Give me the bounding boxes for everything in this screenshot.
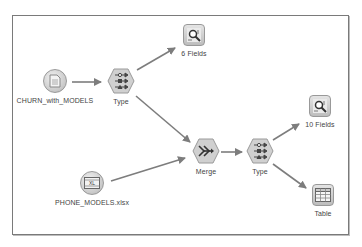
node-label: Type (113, 98, 129, 105)
node-phone-excel-source[interactable]: XL PHONE_MODELS.xlsx (54, 171, 130, 206)
document-icon (43, 69, 67, 93)
type-icon (107, 68, 135, 94)
node-label: Table (314, 210, 331, 217)
node-type-2[interactable]: Type (242, 138, 278, 175)
link-type1-merge (136, 96, 190, 142)
node-type-1[interactable]: Type (103, 68, 139, 105)
node-label: 10 Fields (305, 121, 334, 128)
node-label: 6 Fields (181, 50, 206, 57)
node-label: CHURN_with_MODELS (17, 97, 94, 104)
node-churn-source[interactable]: CHURN_with_MODELS (17, 69, 93, 104)
node-merge[interactable]: Merge (188, 138, 224, 175)
magnifier-icon (309, 95, 331, 117)
node-10-fields-audit[interactable]: 10 Fields (298, 95, 342, 128)
merge-icon (192, 138, 220, 164)
table-icon (312, 184, 334, 206)
type-icon (246, 138, 274, 164)
magnifier-icon (183, 24, 205, 46)
node-label: PHONE_MODELS.xlsx (55, 199, 129, 206)
node-label: Merge (196, 168, 216, 175)
svg-text:XL: XL (89, 180, 95, 186)
node-table-output[interactable]: Table (303, 184, 343, 217)
link-type1-fields6 (137, 48, 175, 70)
node-6-fields-audit[interactable]: 6 Fields (174, 24, 214, 57)
node-label: Type (252, 168, 268, 175)
excel-icon: XL (80, 171, 104, 195)
